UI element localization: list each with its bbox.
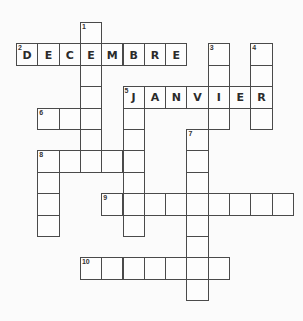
crossword-cell[interactable]: B bbox=[123, 43, 145, 65]
crossword-cell[interactable]: E bbox=[165, 43, 187, 65]
clue-number: 8 bbox=[39, 151, 43, 158]
crossword-cell[interactable] bbox=[37, 193, 59, 215]
crossword-cell[interactable] bbox=[123, 150, 145, 172]
cell-letter: N bbox=[172, 91, 181, 103]
crossword-cell[interactable]: M bbox=[101, 43, 123, 65]
crossword-cell[interactable]: C bbox=[59, 43, 81, 65]
crossword-cell[interactable] bbox=[186, 257, 208, 279]
crossword-cell[interactable] bbox=[123, 108, 145, 130]
crossword-cell[interactable] bbox=[123, 215, 145, 237]
crossword-cell[interactable] bbox=[123, 257, 145, 279]
crossword-cell[interactable]: 9 bbox=[101, 193, 123, 215]
crossword-cell[interactable] bbox=[186, 150, 208, 172]
clue-number: 9 bbox=[103, 194, 107, 201]
crossword-cell[interactable] bbox=[123, 129, 145, 151]
cell-letter: V bbox=[193, 91, 202, 103]
crossword-cell[interactable] bbox=[37, 172, 59, 194]
cell-letter: E bbox=[236, 91, 244, 103]
crossword-cell[interactable]: N bbox=[165, 86, 187, 108]
crossword-cell[interactable] bbox=[59, 150, 81, 172]
cell-letter: M bbox=[107, 49, 118, 61]
clue-number: 10 bbox=[82, 258, 90, 265]
crossword-cell[interactable]: 4 bbox=[250, 43, 272, 65]
crossword-cell[interactable] bbox=[101, 257, 123, 279]
crossword-cell[interactable]: E bbox=[37, 43, 59, 65]
crossword-cell[interactable] bbox=[80, 129, 102, 151]
clue-number: 5 bbox=[125, 87, 129, 94]
crossword-cell[interactable] bbox=[144, 257, 166, 279]
crossword-cell[interactable] bbox=[80, 65, 102, 87]
clue-number: 2 bbox=[18, 44, 22, 51]
crossword-cell[interactable] bbox=[208, 65, 230, 87]
clue-number: 7 bbox=[188, 130, 192, 137]
crossword-cell[interactable] bbox=[208, 193, 230, 215]
crossword-cell[interactable]: A bbox=[144, 86, 166, 108]
cell-letter: C bbox=[66, 49, 74, 61]
crossword-cell[interactable]: R bbox=[250, 86, 272, 108]
crossword-cell[interactable] bbox=[101, 150, 123, 172]
cell-letter: E bbox=[45, 49, 53, 61]
clue-number: 1 bbox=[82, 23, 86, 30]
crossword-cell[interactable]: E bbox=[80, 43, 102, 65]
crossword-cell[interactable] bbox=[123, 193, 145, 215]
crossword-cell[interactable] bbox=[186, 236, 208, 258]
cell-letter: J bbox=[132, 91, 136, 103]
crossword-cell[interactable]: 6 bbox=[37, 108, 59, 130]
crossword-cell[interactable]: 7 bbox=[186, 129, 208, 151]
crossword-cell[interactable] bbox=[80, 108, 102, 130]
crossword-cell[interactable] bbox=[59, 108, 81, 130]
cell-letter: D bbox=[23, 49, 32, 61]
crossword-cell[interactable] bbox=[80, 150, 102, 172]
cell-letter: B bbox=[129, 49, 137, 61]
crossword-cell[interactable] bbox=[165, 193, 187, 215]
crossword-cell[interactable]: E bbox=[229, 86, 251, 108]
crossword-cell[interactable]: 2D bbox=[16, 43, 38, 65]
crossword-cell[interactable] bbox=[123, 172, 145, 194]
cell-letter: E bbox=[172, 49, 180, 61]
cell-letter: E bbox=[87, 49, 95, 61]
crossword-cell[interactable]: V bbox=[186, 86, 208, 108]
clue-number: 3 bbox=[210, 44, 214, 51]
crossword-cell[interactable] bbox=[144, 193, 166, 215]
crossword-cell[interactable] bbox=[37, 215, 59, 237]
crossword-cell[interactable] bbox=[186, 193, 208, 215]
clue-number: 4 bbox=[252, 44, 256, 51]
crossword-cell[interactable] bbox=[250, 65, 272, 87]
crossword-cell[interactable] bbox=[186, 172, 208, 194]
crossword-cell[interactable]: 8 bbox=[37, 150, 59, 172]
cell-letter: A bbox=[151, 91, 160, 103]
cell-letter: R bbox=[151, 49, 159, 61]
crossword-cell[interactable] bbox=[208, 108, 230, 130]
cell-letter: R bbox=[257, 91, 265, 103]
crossword-cell[interactable]: 5J bbox=[123, 86, 145, 108]
crossword-cell[interactable] bbox=[186, 279, 208, 301]
crossword-cell[interactable] bbox=[250, 193, 272, 215]
crossword-cell[interactable]: I bbox=[208, 86, 230, 108]
crossword-cell[interactable] bbox=[80, 86, 102, 108]
crossword-cell[interactable] bbox=[186, 215, 208, 237]
crossword-cell[interactable] bbox=[229, 193, 251, 215]
cell-letter: I bbox=[217, 91, 221, 103]
crossword-grid: 1E2DECMBRE3I4R5JANVE678910 bbox=[0, 0, 303, 321]
crossword-cell[interactable]: 1 bbox=[80, 22, 102, 44]
crossword-cell[interactable] bbox=[165, 257, 187, 279]
crossword-cell[interactable] bbox=[208, 257, 230, 279]
clue-number: 6 bbox=[39, 109, 43, 116]
crossword-cell[interactable]: 10 bbox=[80, 257, 102, 279]
crossword-cell[interactable] bbox=[250, 108, 272, 130]
crossword-cell[interactable]: 3 bbox=[208, 43, 230, 65]
crossword-cell[interactable]: R bbox=[144, 43, 166, 65]
crossword-cell[interactable] bbox=[272, 193, 294, 215]
